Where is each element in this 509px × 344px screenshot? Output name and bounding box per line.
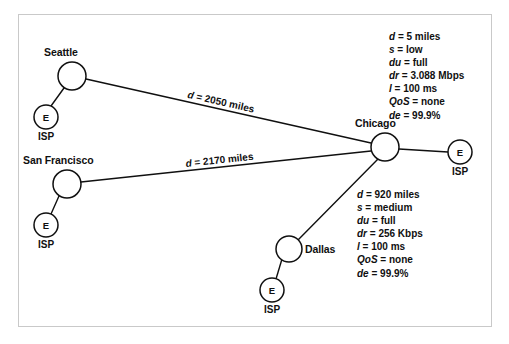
param-row: l = 100 ms	[357, 240, 423, 253]
node-dallas[interactable]	[276, 236, 302, 262]
link-dallas-isp	[276, 259, 282, 279]
param-eq: =	[369, 215, 380, 226]
param-row: de = 99.9%	[357, 267, 423, 280]
param-row: s = low	[389, 43, 464, 56]
param-key: de	[357, 268, 369, 279]
isp-label-dallas: ISP	[257, 304, 287, 315]
param-key: du	[389, 57, 401, 68]
param-row: d = 920 miles	[357, 188, 423, 201]
param-eq: =	[363, 202, 374, 213]
node-seattle[interactable]	[58, 62, 86, 90]
diagram-page: Seattle San Francisco Dallas Chicago E E…	[0, 0, 509, 344]
node-label-dallas: Dallas	[305, 243, 335, 255]
param-value: full	[413, 57, 428, 68]
node-label-san-francisco: San Francisco	[23, 154, 93, 166]
param-key: dr	[389, 70, 399, 81]
param-value: 920 miles	[375, 189, 420, 200]
param-eq: =	[392, 83, 403, 94]
param-row: dr = 3.088 Mbps	[389, 69, 464, 82]
param-eq: =	[378, 254, 389, 265]
param-key: dr	[357, 228, 367, 239]
param-row: de = 99.9%	[389, 109, 464, 122]
isp-chicago-e-glyph: E	[450, 147, 470, 158]
param-eq: =	[369, 268, 380, 279]
link-sf-isp	[51, 196, 59, 214]
param-row: du = full	[357, 214, 423, 227]
param-eq: =	[363, 189, 374, 200]
node-san-francisco[interactable]	[53, 170, 81, 198]
param-value: 5 miles	[407, 31, 441, 42]
param-key: du	[357, 215, 369, 226]
param-value: none	[421, 96, 445, 107]
param-eq: =	[401, 57, 412, 68]
param-row: QoS = none	[389, 95, 464, 108]
isp-label-sf: ISP	[31, 239, 61, 250]
param-value: 99.9%	[380, 268, 408, 279]
param-eq: =	[410, 96, 421, 107]
param-value: 99.9%	[412, 110, 440, 121]
param-value: low	[406, 44, 423, 55]
isp-label-seattle: ISP	[31, 131, 61, 142]
isp-label-chicago: ISP	[445, 166, 475, 177]
param-key: de	[389, 110, 401, 121]
param-value: medium	[374, 202, 412, 213]
param-eq: =	[399, 70, 410, 81]
param-row: QoS = none	[357, 253, 423, 266]
link-seattle-chicago	[86, 79, 371, 143]
param-row: d = 5 miles	[389, 30, 464, 43]
param-eq: =	[401, 110, 412, 121]
param-eq: =	[395, 44, 406, 55]
link-seattle-isp	[51, 88, 64, 106]
node-label-seattle: Seattle	[44, 46, 78, 58]
isp-sf-e-glyph: E	[36, 220, 56, 231]
annotation-dallas-chicago-params: d = 920 miles s = medium du = full dr = …	[357, 188, 423, 280]
param-row: l = 100 ms	[389, 82, 464, 95]
param-key: QoS	[389, 96, 410, 107]
param-eq: =	[367, 228, 378, 239]
param-value: 100 ms	[371, 241, 405, 252]
param-value: 256 Kbps	[378, 228, 422, 239]
param-value: 3.088 Mbps	[410, 70, 464, 81]
node-chicago[interactable]	[371, 133, 399, 161]
param-value: full	[381, 215, 396, 226]
param-key: QoS	[357, 254, 378, 265]
param-value: 100 ms	[403, 83, 437, 94]
param-eq: =	[360, 241, 371, 252]
param-eq: =	[395, 31, 406, 42]
param-row: du = full	[389, 56, 464, 69]
isp-seattle-e-glyph: E	[36, 112, 56, 123]
param-row: dr = 256 Kbps	[357, 227, 423, 240]
param-row: s = medium	[357, 201, 423, 214]
param-value: none	[389, 254, 413, 265]
link-chicago-isp	[399, 149, 448, 152]
isp-dallas-e-glyph: E	[262, 285, 282, 296]
annotation-chicago-isp-params: d = 5 miles s = low du = full dr = 3.088…	[389, 30, 464, 122]
